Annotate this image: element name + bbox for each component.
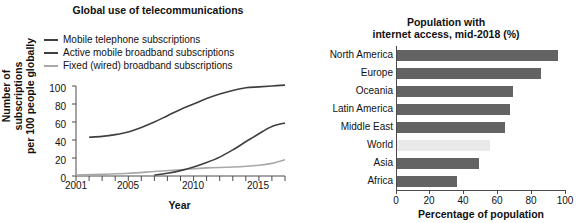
bar-chart-x-axis-line xyxy=(396,190,566,191)
bar xyxy=(396,158,479,169)
bar xyxy=(396,140,490,151)
series-line-mobile-telephone xyxy=(89,85,285,137)
x-tick-mark xyxy=(429,190,430,194)
category-label: Asia xyxy=(293,154,393,172)
x-tick-label: 40 xyxy=(448,195,478,206)
category-label: North America xyxy=(293,46,393,64)
legend-swatch-icon xyxy=(44,39,58,41)
x-tick-label: 60 xyxy=(482,195,512,206)
legend-item-mobile-telephone: Mobile telephone subscriptions xyxy=(44,33,288,46)
legend-swatch-icon xyxy=(44,52,58,54)
category-label: World xyxy=(293,136,393,154)
line-chart-plot-area xyxy=(72,82,287,186)
category-label: Europe xyxy=(293,64,393,82)
x-tick-label: 0 xyxy=(381,195,411,206)
x-tick-label: 80 xyxy=(516,195,546,206)
bar-row xyxy=(396,172,566,190)
bar-chart-y-axis-line xyxy=(396,46,397,190)
bar-chart-title: Population with internet access, mid-201… xyxy=(313,16,579,40)
y-tick-label: 80 xyxy=(38,101,66,112)
x-tick-mark xyxy=(497,190,498,194)
legend-item-active-mobile-broadband: Active mobile broadband subscriptions xyxy=(44,46,288,59)
legend-label: Fixed (wired) broadband subscriptions xyxy=(63,60,233,71)
y-axis-label-line-2: per 100 people globally xyxy=(24,34,36,158)
line-chart-title: Global use of telecommunications xyxy=(38,4,278,16)
series-line-fixed-broadband xyxy=(76,160,285,175)
x-tick-mark xyxy=(396,190,397,194)
y-tick-label: 20 xyxy=(38,155,66,166)
y-axis-label-line-1: Number of subscriptions xyxy=(0,34,24,158)
bar-row xyxy=(396,136,566,154)
x-tick-label: 100 xyxy=(550,195,580,206)
line-chart-legend: Mobile telephone subscriptions Active mo… xyxy=(44,33,288,72)
bar-chart-bars xyxy=(396,46,566,190)
legend-item-fixed-broadband: Fixed (wired) broadband subscriptions xyxy=(44,59,288,72)
bar-chart-panel: Population with internet access, mid-201… xyxy=(293,0,586,223)
bar xyxy=(396,176,457,187)
legend-label: Active mobile broadband subscriptions xyxy=(63,47,234,58)
bar-row xyxy=(396,100,566,118)
category-label: Africa xyxy=(293,172,393,190)
line-chart-x-axis-label: Year xyxy=(72,199,287,211)
bar-row xyxy=(396,46,566,64)
bar-chart-title-line-2: internet access, mid-2018 (%) xyxy=(313,28,579,40)
legend-swatch-icon xyxy=(44,65,58,67)
bar-chart-category-labels: North America Europe Oceania Latin Ameri… xyxy=(293,46,393,190)
legend-label: Mobile telephone subscriptions xyxy=(63,34,200,45)
x-tick-mark xyxy=(463,190,464,194)
bar xyxy=(396,122,505,133)
bar-row xyxy=(396,64,566,82)
bar-row xyxy=(396,82,566,100)
x-tick-label: 2001 xyxy=(58,180,94,191)
x-tick-label: 20 xyxy=(414,195,444,206)
figure-root: Global use of telecommunications Mobile … xyxy=(0,0,586,223)
bar-row xyxy=(396,154,566,172)
bar-chart-title-line-1: Population with xyxy=(313,16,579,28)
bar-chart-x-axis-label: Percentage of population xyxy=(381,208,581,220)
bar xyxy=(396,68,541,79)
y-tick-label: 60 xyxy=(38,119,66,130)
line-chart-panel: Global use of telecommunications Mobile … xyxy=(0,0,293,223)
x-tick-label: 2005 xyxy=(110,180,146,191)
x-tick-mark xyxy=(565,190,566,194)
x-tick-label: 2015 xyxy=(240,180,276,191)
bar xyxy=(396,50,558,61)
category-label: Oceania xyxy=(293,82,393,100)
x-tick-mark xyxy=(531,190,532,194)
line-chart-y-axis-label: Number of subscriptions per 100 people g… xyxy=(0,34,36,158)
y-tick-marks xyxy=(72,86,76,176)
bar xyxy=(396,104,510,115)
x-tick-label: 2010 xyxy=(175,180,211,191)
bar xyxy=(396,86,513,97)
bar-row xyxy=(396,118,566,136)
category-label: Middle East xyxy=(293,118,393,136)
y-tick-label: 100 xyxy=(38,83,66,94)
category-label: Latin America xyxy=(293,100,393,118)
y-tick-label: 40 xyxy=(38,137,66,148)
